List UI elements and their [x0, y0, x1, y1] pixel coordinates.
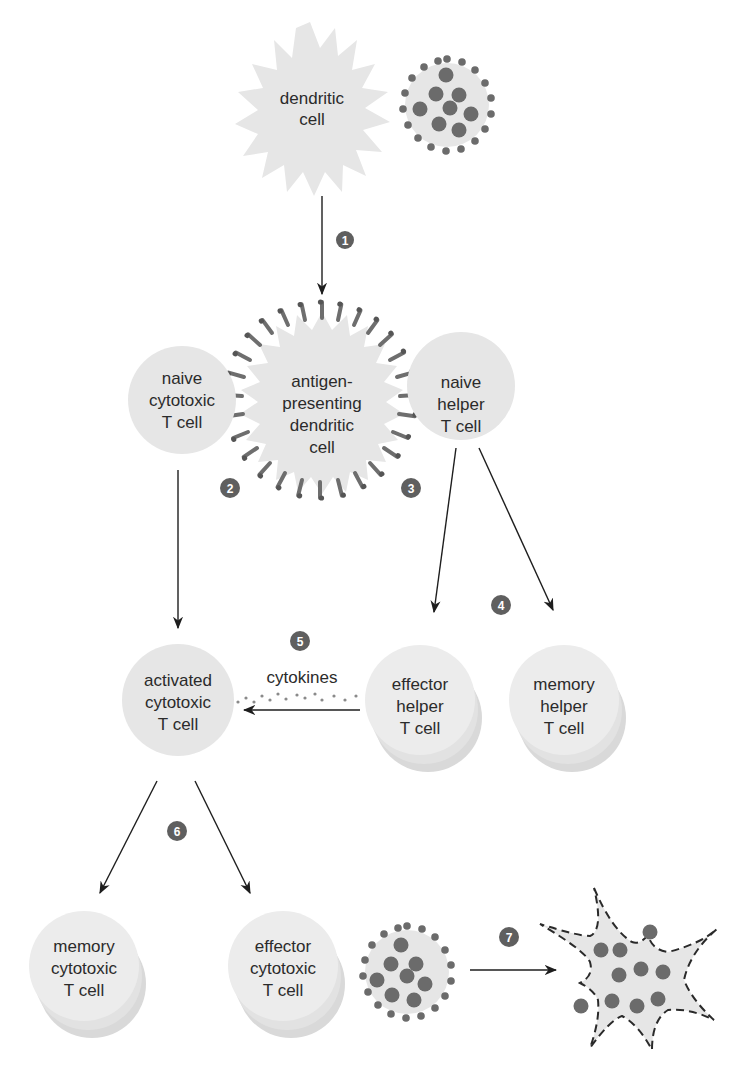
memory-cytotoxic-t-cell: memory cytotoxic T cell: [29, 911, 146, 1038]
infected-cell-icon: [359, 922, 455, 1022]
svg-text:helper: helper: [396, 697, 444, 716]
activated-cytotoxic-t-cell: activated cytotoxic T cell: [122, 644, 234, 756]
svg-text:cytotoxic: cytotoxic: [51, 959, 118, 978]
apc-label-4: cell: [309, 438, 335, 457]
svg-text:cytotoxic: cytotoxic: [149, 391, 216, 410]
svg-text:activated: activated: [144, 671, 212, 690]
svg-text:6: 6: [174, 825, 181, 839]
step-badge-1: 1: [336, 231, 354, 249]
svg-text:memory: memory: [533, 675, 595, 694]
svg-text:effector: effector: [392, 675, 449, 694]
svg-text:7: 7: [506, 931, 513, 945]
svg-text:T cell: T cell: [162, 413, 202, 432]
pathogen-icon: [399, 55, 495, 155]
effector-cytotoxic-t-cell: effector cytotoxic T cell: [228, 911, 345, 1038]
lysed-cell-icon: [540, 888, 717, 1050]
dendritic-cell-label-1: dendritic: [280, 89, 345, 108]
step-badge-5: 5: [290, 631, 310, 651]
svg-text:3: 3: [408, 482, 415, 496]
arrow-to-effector-cytotoxic: [195, 781, 250, 893]
svg-text:5: 5: [297, 635, 304, 649]
dendritic-cell-shape: [235, 22, 390, 196]
apc-label-3: dendritic: [290, 416, 355, 435]
dendritic-cell-label-2: cell: [299, 110, 325, 129]
step-badge-3: 3: [401, 478, 421, 498]
svg-text:T cell: T cell: [263, 981, 303, 1000]
dendritic-cell: dendritic cell: [235, 22, 390, 196]
step-badge-7: 7: [499, 927, 519, 947]
svg-text:2: 2: [227, 482, 234, 496]
svg-text:cytotoxic: cytotoxic: [145, 693, 212, 712]
svg-text:T cell: T cell: [544, 719, 584, 738]
effector-helper-t-cell: effector helper T cell: [365, 645, 482, 772]
svg-text:helper: helper: [437, 395, 485, 414]
t-cell-activation-diagram: dendritic cell 1: [0, 0, 741, 1084]
step-badge-6: 6: [167, 821, 187, 841]
arrow-naive-to-memory-helper: [479, 448, 553, 610]
svg-text:cytotoxic: cytotoxic: [250, 959, 317, 978]
svg-text:naive: naive: [441, 373, 482, 392]
memory-helper-t-cell: memory helper T cell: [509, 645, 626, 772]
svg-text:T cell: T cell: [64, 981, 104, 1000]
apc-label-1: antigen-: [291, 372, 352, 391]
svg-text:helper: helper: [540, 697, 588, 716]
svg-text:1: 1: [342, 234, 349, 248]
svg-text:naive: naive: [162, 369, 203, 388]
svg-text:T cell: T cell: [441, 417, 481, 436]
arrow-to-memory-cytotoxic: [100, 781, 157, 893]
naive-helper-t-cell: naive helper T cell: [407, 332, 515, 440]
cytokines-label: cytokines: [267, 668, 338, 687]
cytokine-dots: [236, 692, 373, 703]
svg-text:T cell: T cell: [158, 715, 198, 734]
step-badge-4: 4: [491, 595, 511, 615]
antigen-presenting-dendritic-cell: antigen- presenting dendritic cell: [223, 299, 418, 500]
step-badge-2: 2: [220, 478, 240, 498]
apc-label-2: presenting: [282, 394, 361, 413]
naive-cytotoxic-t-cell: naive cytotoxic T cell: [128, 346, 236, 454]
svg-text:T cell: T cell: [400, 719, 440, 738]
svg-text:4: 4: [498, 599, 505, 613]
svg-text:memory: memory: [53, 937, 115, 956]
svg-text:effector: effector: [255, 937, 312, 956]
arrow-naive-to-effector-helper: [434, 448, 456, 612]
